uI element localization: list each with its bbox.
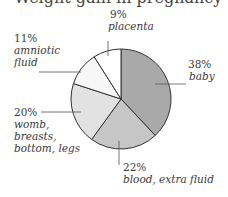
blood-text: blood, extra fluid xyxy=(123,173,214,185)
womb-text-1: womb, xyxy=(14,118,80,130)
womb-text-2: breasts, xyxy=(14,130,80,142)
pie-slices xyxy=(71,49,171,149)
placenta-pct: 9% xyxy=(108,8,154,20)
label-womb: 20% womb, breasts, bottom, legs xyxy=(14,106,80,154)
amniotic-pct: 11% xyxy=(14,32,60,44)
womb-pct: 20% xyxy=(14,106,80,118)
baby-pct: 38% xyxy=(188,58,215,70)
label-placenta: 9% placenta xyxy=(108,8,154,32)
womb-text-3: bottom, legs xyxy=(14,142,80,154)
label-amniotic: 11% amniotic fluid xyxy=(14,32,60,68)
amniotic-text-2: fluid xyxy=(14,56,60,68)
placenta-text: placenta xyxy=(108,20,154,32)
baby-text: baby xyxy=(188,70,215,82)
blood-pct: 22% xyxy=(123,161,214,173)
amniotic-text-1: amniotic xyxy=(14,44,60,56)
label-blood: 22% blood, extra fluid xyxy=(123,161,214,185)
label-baby: 38% baby xyxy=(188,58,215,82)
